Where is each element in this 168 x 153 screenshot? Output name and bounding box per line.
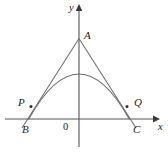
y-axis-arrowhead <box>76 4 83 11</box>
tangent-point-p-marker <box>30 105 33 108</box>
point-label-q: Q <box>134 97 142 108</box>
x-axis-label: x <box>158 122 163 133</box>
y-axis-label: y <box>69 3 74 14</box>
origin-label: 0 <box>63 122 68 133</box>
point-label-a: A <box>84 30 91 41</box>
tangent-point-q-marker <box>126 105 129 108</box>
point-label-b: B <box>22 124 29 135</box>
point-label-c: C <box>133 124 140 135</box>
point-label-p: P <box>18 97 25 108</box>
tangent-line-right <box>79 39 136 129</box>
geometry-figure: A P Q B C y x 0 <box>0 0 168 153</box>
tangent-line-left <box>22 39 79 129</box>
